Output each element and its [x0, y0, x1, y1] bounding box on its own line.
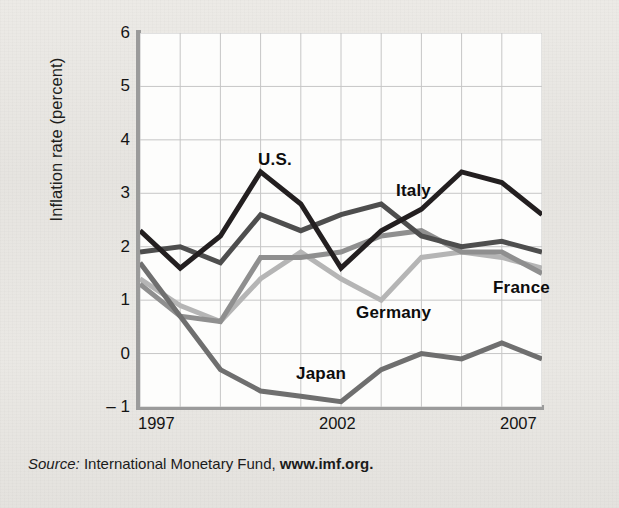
source-organization: International Monetary Fund, [84, 455, 276, 472]
source-label: Source: [28, 455, 80, 472]
series-label-france: France [493, 278, 550, 298]
x-tick-1997: 1997 [138, 414, 175, 433]
series-label-japan: Japan [296, 364, 346, 384]
source-note: Source: International Monetary Fund, www… [28, 455, 373, 472]
series-label-italy: Italy [396, 181, 431, 201]
y-tick-3: 3 [104, 184, 130, 201]
y-tick-1: 1 [104, 291, 130, 308]
series-label-us: U.S. [258, 150, 292, 170]
series-lines-svg [140, 33, 542, 407]
y-tick-0: 0 [104, 345, 130, 362]
x-tick-2007: 2007 [500, 414, 537, 433]
plot-area [140, 33, 542, 407]
y-tick-2: 2 [104, 238, 130, 255]
y-tick-neg1: – 1 [104, 398, 130, 415]
source-url: www.imf.org. [280, 455, 374, 472]
y-tick-5: 5 [104, 77, 130, 94]
x-tick-2002: 2002 [319, 414, 356, 433]
y-axis-tick-labels: 6543210– 1 [100, 0, 130, 440]
y-tick-6: 6 [104, 24, 130, 41]
inflation-rate-chart-figure: Inflation rate (percent) 6543210– 1 1997… [0, 0, 619, 508]
y-axis-title: Inflation rate (percent) [47, 40, 66, 240]
series-label-germany: Germany [356, 303, 431, 323]
y-tick-4: 4 [104, 131, 130, 148]
